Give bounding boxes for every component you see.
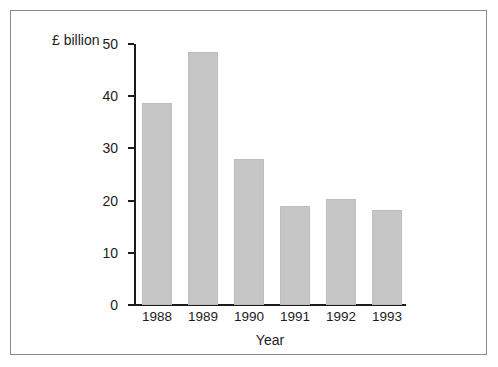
x-tick-label-1992: 1992 <box>318 310 364 325</box>
bar-chart-figure: £ billion 0 10 20 30 40 50 <box>0 0 498 367</box>
y-axis-line <box>134 44 136 306</box>
bar-1991 <box>280 206 310 305</box>
x-tick-label-1993: 1993 <box>364 310 410 325</box>
x-tick-label-1991: 1991 <box>272 310 318 325</box>
x-tick-label-1989: 1989 <box>180 310 226 325</box>
bar-1993 <box>372 210 402 305</box>
x-tick-label-1988: 1988 <box>134 310 180 325</box>
plot-area: £ billion 0 10 20 30 40 50 <box>0 0 498 367</box>
y-tick-label-40: 40 <box>78 89 118 103</box>
bar-1988 <box>142 103 172 305</box>
bar-1989 <box>188 52 218 305</box>
y-tick-label-0: 0 <box>78 298 118 312</box>
x-tick-label-1990: 1990 <box>226 310 272 325</box>
x-axis-title: Year <box>134 332 406 348</box>
y-tick-label-50: 50 <box>78 37 118 51</box>
x-axis-line <box>134 304 406 306</box>
y-tick-label-30: 30 <box>78 141 118 155</box>
y-tick-label-10: 10 <box>78 246 118 260</box>
bar-1992 <box>326 199 356 305</box>
y-tick-label-20: 20 <box>78 194 118 208</box>
bar-1990 <box>234 159 264 305</box>
